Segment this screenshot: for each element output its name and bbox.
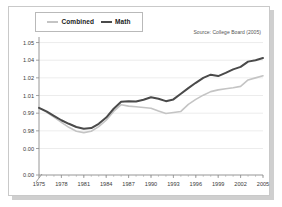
line-chart-svg: 1.051.041.021.010.990.980.000.00 1975197… (9, 7, 271, 197)
svg-text:0.98: 0.98 (23, 128, 34, 134)
svg-text:1996: 1996 (190, 181, 202, 187)
svg-text:1990: 1990 (145, 181, 157, 187)
svg-text:0.00: 0.00 (23, 172, 34, 178)
svg-text:1.02: 1.02 (23, 75, 34, 81)
svg-text:2002: 2002 (234, 181, 246, 187)
series-line-combined (39, 76, 263, 133)
svg-text:1981: 1981 (78, 181, 90, 187)
chart-frame: Combined Math Source: College Board (200… (8, 6, 270, 196)
svg-text:1978: 1978 (55, 181, 67, 187)
svg-text:1999: 1999 (212, 181, 224, 187)
series-line-math (39, 58, 263, 129)
svg-text:1987: 1987 (122, 181, 134, 187)
chart-plot-area: 1.051.041.021.010.990.980.000.00 1975197… (9, 7, 271, 197)
svg-text:0.00: 0.00 (23, 146, 34, 152)
svg-text:1975: 1975 (33, 181, 45, 187)
svg-text:1984: 1984 (100, 181, 112, 187)
grid-lines (39, 43, 263, 149)
svg-text:1.04: 1.04 (23, 57, 34, 63)
svg-text:1993: 1993 (167, 181, 179, 187)
svg-text:1.05: 1.05 (23, 40, 34, 46)
svg-text:0.99: 0.99 (23, 110, 34, 116)
svg-text:1.01: 1.01 (23, 93, 34, 99)
y-axis-ticks: 1.051.041.021.010.990.980.000.00 (23, 40, 39, 178)
x-axis-ticks: 1975197819811984198719901993199619992002… (33, 175, 269, 187)
svg-text:2005: 2005 (257, 181, 269, 187)
